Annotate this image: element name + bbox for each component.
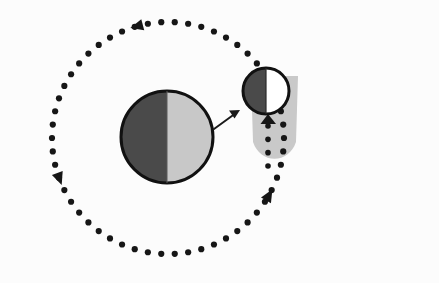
orbit-marker-dot (211, 241, 217, 247)
orbit-marker-dot (76, 60, 82, 66)
orbit-marker-dot (61, 83, 67, 89)
inner-orbit-marker-dot (265, 163, 271, 169)
orbit-marker-dot (254, 60, 260, 66)
orbit-marker-dot (172, 19, 178, 25)
orbit-marker-dot (245, 219, 251, 225)
inner-orbit-marker-dot (265, 137, 271, 143)
orbit-marker-dot (107, 34, 113, 40)
diagram-canvas (0, 0, 439, 283)
orbit-marker-dot (107, 235, 113, 241)
orbit-marker-dot (223, 235, 229, 241)
orbit-marker-dot (234, 42, 240, 48)
orbit-marker-dot (274, 175, 280, 181)
orbit-marker-dot (145, 249, 151, 255)
orbit-marker-dot (96, 228, 102, 234)
orbit-marker-dot (185, 21, 191, 27)
orbit-marker-dot (56, 95, 62, 101)
orbit-marker-dot (281, 135, 287, 141)
orbit-marker-dot (132, 246, 138, 252)
orbit-marker-dot (280, 148, 286, 154)
orbit-marker-dot (234, 228, 240, 234)
orbit-marker-dot (145, 21, 151, 27)
orbit-marker-dot (254, 209, 260, 215)
inner-orbit-marker-dot (265, 123, 271, 129)
orbit-marker-dot (96, 42, 102, 48)
orbit-marker-dot (278, 162, 284, 168)
orbit-marker-dot (185, 249, 191, 255)
orbit-marker-dot (50, 121, 56, 127)
orbit-marker-dot (158, 251, 164, 257)
orbit-marker-dot (49, 135, 55, 141)
orbit-marker-dot (76, 209, 82, 215)
orbit-marker-dot (245, 51, 251, 57)
orbit-marker-dot (61, 187, 67, 193)
orbit-marker-dot (223, 34, 229, 40)
orbit-marker-dot (68, 199, 74, 205)
satellite-body (243, 68, 289, 114)
orbit-marker-dot (198, 246, 204, 252)
primary-body (121, 91, 213, 183)
orbit-marker-dot (52, 162, 58, 168)
orbital-diagram (0, 0, 439, 283)
orbit-marker-dot (158, 19, 164, 25)
orbit-marker-dot (198, 24, 204, 30)
orbit-marker-dot (119, 28, 125, 34)
orbit-marker-dot (52, 108, 58, 114)
orbit-marker-dot (68, 71, 74, 77)
orbit-marker-dot (85, 51, 91, 57)
orbit-marker-dot (85, 219, 91, 225)
orbit-marker-dot (211, 28, 217, 34)
inner-orbit-marker-dot (265, 150, 271, 156)
diagram-background (0, 0, 439, 283)
orbit-marker-dot (119, 241, 125, 247)
orbit-marker-dot (280, 121, 286, 127)
orbit-marker-dot (50, 148, 56, 154)
orbit-marker-dot (172, 251, 178, 257)
